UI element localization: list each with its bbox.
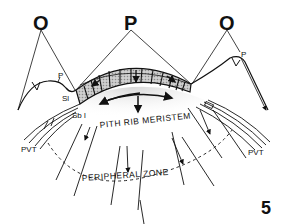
label-p-right: P xyxy=(241,50,246,59)
label-sl: Sl xyxy=(62,94,69,103)
label-p-left: P xyxy=(58,71,63,80)
label-pvt-left: PVT xyxy=(21,145,37,154)
label-sbl: Sb l xyxy=(72,111,86,120)
figure-number: 5 xyxy=(261,198,271,218)
label-o-left: O xyxy=(33,12,49,34)
right-vascular-strands xyxy=(196,100,270,150)
label-o-right: O xyxy=(219,12,235,34)
shoot-apex-diagram: O P O P P Sl Sb l PVT PVT PITH RIB MERIS… xyxy=(0,0,287,224)
label-p-center: P xyxy=(124,12,137,34)
label-pvt-right: PVT xyxy=(248,148,264,157)
